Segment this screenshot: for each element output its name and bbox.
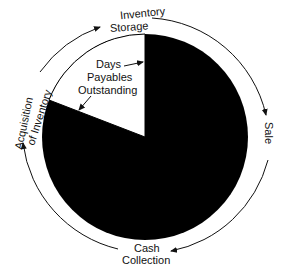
label-sale: Sale <box>263 122 275 144</box>
label-collection: Collection <box>122 254 170 266</box>
label-cash: Cash <box>134 242 160 254</box>
wedge-label-days: Days <box>96 58 122 70</box>
operating-cycle-diagram: Inventory Storage Sale Cash Collection A… <box>0 0 282 273</box>
wedge-label-outstanding: Outstanding <box>78 84 137 96</box>
label-inventory-storage-2: Storage <box>110 19 149 34</box>
wedge-label-payables: Payables <box>87 71 133 83</box>
